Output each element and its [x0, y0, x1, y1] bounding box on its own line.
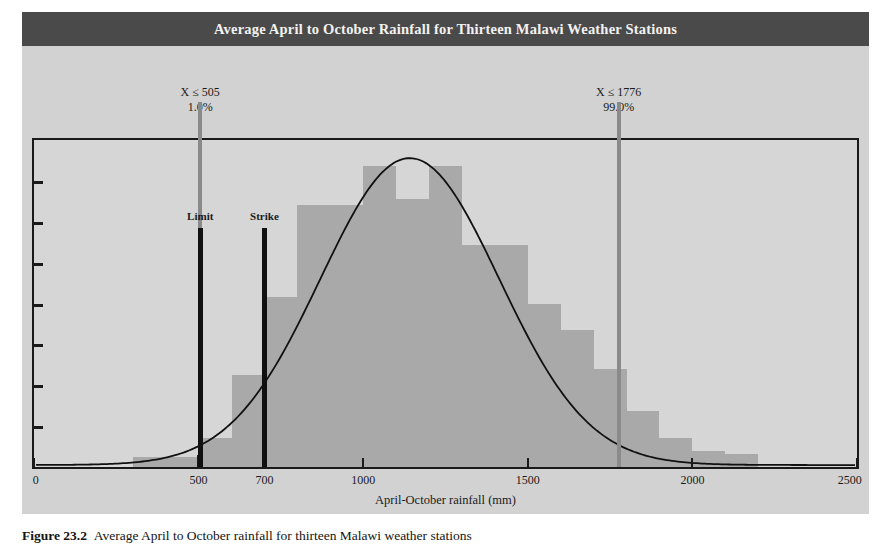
x-axis-tick-label: 700: [255, 473, 273, 488]
histogram-bar: [330, 205, 363, 467]
histogram-bar: [659, 438, 692, 467]
x-axis-tick: [34, 458, 35, 467]
histogram-bar: [528, 304, 561, 468]
figure-caption: Figure 23.2 Average April to October rai…: [22, 528, 882, 544]
y-axis-tick: [34, 304, 43, 307]
x-axis-tick-label: 1000: [351, 473, 375, 488]
histogram-bar: [297, 205, 330, 467]
x-axis-tick: [362, 458, 364, 467]
chart-title-banner: Average April to October Rainfall for Th…: [22, 12, 869, 46]
y-axis-tick: [34, 263, 43, 266]
histogram-bar: [594, 369, 627, 467]
plot-inner: [34, 140, 857, 467]
histogram-bar: [725, 454, 758, 467]
chart-title: Average April to October Rainfall for Th…: [214, 21, 677, 38]
caption-label: Figure 23.2: [22, 528, 87, 543]
x-axis-title: April-October rainfall (mm): [22, 493, 869, 508]
x-axis-tick: [856, 458, 857, 467]
figure-panel: Average April to October Rainfall for Th…: [22, 12, 869, 514]
percentile-right-value: X ≤ 1776: [596, 85, 641, 100]
x-axis-tick: [527, 458, 529, 467]
histogram-bar: [199, 438, 232, 467]
histogram-bar: [429, 166, 462, 467]
marker-label-limit: Limit: [187, 210, 213, 222]
y-axis-tick: [34, 181, 43, 184]
x-axis-tick-label: 2000: [680, 473, 704, 488]
histogram-bar: [363, 166, 396, 467]
marker-line-limit: [198, 228, 203, 467]
histogram-bar: [396, 199, 429, 467]
y-axis-tick: [34, 344, 43, 347]
y-axis-tick: [34, 385, 43, 388]
x-axis-tick-label: 2500: [838, 473, 862, 488]
histogram-bar: [264, 297, 297, 467]
histogram-bar: [495, 245, 528, 467]
histogram-bar: [692, 451, 725, 467]
histogram-bar: [232, 375, 265, 467]
histogram-bar: [133, 457, 166, 467]
marker-label-strike: Strike: [250, 210, 279, 222]
histogram-bar: [561, 330, 594, 467]
histogram-bar: [166, 457, 199, 467]
x-axis-tick-label: 1500: [516, 473, 540, 488]
plot-area: [32, 138, 859, 469]
caption-text: Average April to October rainfall for th…: [94, 528, 472, 543]
y-axis-tick: [34, 426, 43, 429]
y-axis-tick: [34, 222, 43, 225]
x-axis-tick-label: 0: [33, 473, 39, 488]
marker-line-strike: [262, 228, 267, 467]
x-axis-tick-label: 500: [190, 473, 208, 488]
percentile-line-right: [617, 102, 621, 467]
histogram-bar: [627, 411, 660, 467]
histogram-bar: [462, 245, 495, 467]
percentile-left-value: X ≤ 505: [181, 85, 220, 100]
x-axis-tick: [691, 458, 693, 467]
